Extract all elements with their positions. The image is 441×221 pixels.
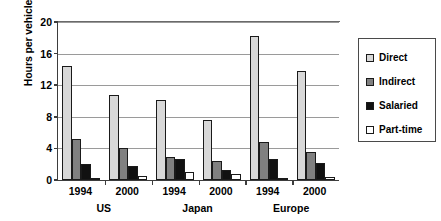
plot-area: 048121620	[57, 22, 339, 181]
bar[interactable]	[259, 142, 269, 180]
legend-swatch-icon	[366, 102, 374, 110]
bar-chart: Hours per vehicle 048121620 199420001994…	[0, 0, 441, 221]
legend-swatch-icon	[366, 126, 374, 134]
bar-group	[198, 22, 245, 180]
legend-item[interactable]: Salaried	[366, 94, 435, 118]
bar[interactable]	[325, 177, 335, 180]
bar[interactable]	[185, 172, 195, 180]
legend-label: Salaried	[379, 101, 418, 111]
bar[interactable]	[91, 178, 101, 180]
legend-swatch-icon	[366, 78, 374, 86]
x-axis-year-labels: 199420001994200019942000	[57, 184, 338, 198]
bar[interactable]	[175, 159, 185, 180]
bar[interactable]	[156, 100, 166, 180]
y-axis-title: Hours per vehicle	[21, 0, 35, 113]
legend-item[interactable]: Indirect	[366, 70, 435, 94]
bar-group	[58, 22, 105, 180]
y-tick-label: 0	[46, 175, 52, 185]
x-axis-region-label: US	[57, 200, 151, 216]
x-axis-year-label: 2000	[104, 184, 151, 198]
bar[interactable]	[250, 36, 260, 180]
bar[interactable]	[278, 178, 288, 180]
bar[interactable]	[109, 95, 119, 180]
bar[interactable]	[166, 157, 176, 180]
bar-group	[152, 22, 199, 180]
bar-group	[105, 22, 152, 180]
bar-group	[292, 22, 339, 180]
bar[interactable]	[316, 163, 326, 180]
y-tick-label: 8	[46, 112, 52, 122]
bar[interactable]	[231, 174, 241, 180]
x-axis-region-labels: USJapanEurope	[57, 200, 338, 216]
bar[interactable]	[119, 148, 129, 180]
bar-groups	[58, 22, 339, 180]
bar-group	[245, 22, 292, 180]
bar[interactable]	[222, 170, 232, 180]
x-axis-year-label: 1994	[57, 184, 104, 198]
bar[interactable]	[62, 66, 72, 180]
x-axis-year-label: 1994	[244, 184, 291, 198]
y-tick-label: 4	[46, 143, 52, 153]
bar[interactable]	[81, 164, 91, 180]
x-axis-region-label: Europe	[244, 200, 338, 216]
legend-label: Indirect	[379, 77, 415, 87]
bar[interactable]	[306, 152, 316, 180]
bar[interactable]	[138, 176, 148, 180]
legend-item[interactable]: Direct	[366, 46, 435, 70]
x-axis-year-label: 2000	[197, 184, 244, 198]
y-tick-label: 12	[40, 80, 52, 90]
bar[interactable]	[203, 120, 213, 180]
legend-label: Part-time	[379, 125, 422, 135]
x-axis-year-label: 1994	[151, 184, 198, 198]
bar[interactable]	[212, 161, 222, 180]
legend-swatch-icon	[366, 54, 374, 62]
bar[interactable]	[297, 71, 307, 180]
bar[interactable]	[128, 166, 138, 180]
y-tick-label: 16	[40, 49, 52, 59]
x-axis-year-label: 2000	[291, 184, 338, 198]
chart-legend: DirectIndirectSalariedPart-time	[358, 38, 436, 142]
legend-item[interactable]: Part-time	[366, 118, 435, 142]
bar[interactable]	[72, 139, 82, 180]
bar[interactable]	[269, 159, 279, 180]
x-axis-region-label: Japan	[151, 200, 245, 216]
legend-label: Direct	[379, 53, 407, 63]
y-tick-label: 20	[40, 17, 52, 27]
